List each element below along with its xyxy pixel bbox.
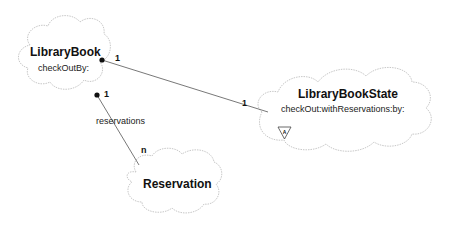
svg-text:A: A — [283, 129, 287, 135]
association-end-dot — [94, 92, 99, 97]
role-reservations: reservations — [96, 116, 145, 126]
class-name-reservation: Reservation — [143, 177, 212, 191]
class-name-library-book: LibraryBook — [30, 45, 101, 59]
multiplicity-reservation: n — [141, 145, 147, 155]
multiplicity-library-book-to-state: 1 — [115, 53, 120, 63]
multiplicity-library-book-to-reservations: 1 — [104, 89, 109, 99]
diagram-canvas: A — [0, 0, 449, 244]
multiplicity-state: 1 — [242, 98, 247, 108]
class-name-library-book-state: LibraryBookState — [298, 87, 398, 101]
class-operations-library-book: checkOutBy: — [38, 63, 89, 73]
association-line-reservations — [97, 95, 139, 165]
class-operations-library-book-state: checkOut:withReservations:by: — [281, 104, 405, 114]
abstract-adornment-icon: A — [278, 127, 291, 139]
